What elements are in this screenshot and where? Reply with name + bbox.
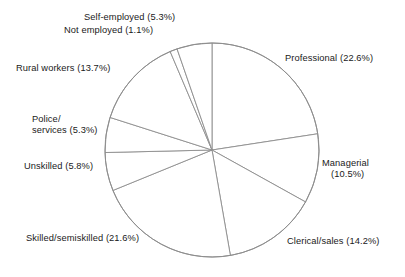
slice-label-self-employed: Self-employed (5.3%): [84, 12, 175, 23]
slice-label-professional: Professional (22.6%): [285, 53, 373, 64]
slice-label-managerial-line1: Managerial: [322, 158, 369, 169]
slice-label-not-employed: Not employed (1.1%): [64, 25, 153, 36]
slice-label-managerial-line2: (10.5%): [322, 169, 369, 180]
pie-slices-group: [105, 43, 319, 257]
slice-label-rural-workers-text: Rural workers (13.7%): [16, 63, 110, 74]
slice-label-police-services-line1: Police/: [32, 114, 97, 125]
pie-chart-figure: Self-employed (5.3%) Not employed (1.1%)…: [0, 0, 405, 277]
slice-label-not-employed-text: Not employed (1.1%): [64, 25, 153, 36]
slice-label-managerial: Managerial (10.5%): [322, 158, 369, 181]
slice-label-rural-workers: Rural workers (13.7%): [16, 63, 110, 74]
slice-label-clerical-sales: Clerical/sales (14.2%): [287, 236, 379, 247]
slice-label-police-services-line2: services (5.3%): [32, 125, 97, 136]
slice-label-unskilled: Unskilled (5.8%): [24, 161, 93, 172]
slice-label-skilled-semiskilled-text: Skilled/semiskilled (21.6%): [26, 233, 139, 244]
slice-label-unskilled-text: Unskilled (5.8%): [24, 161, 93, 172]
slice-label-self-employed-text: Self-employed (5.3%): [84, 12, 175, 23]
slice-label-police-services: Police/ services (5.3%): [32, 114, 97, 137]
slice-label-skilled-semiskilled: Skilled/semiskilled (21.6%): [26, 233, 139, 244]
slice-label-clerical-sales-text: Clerical/sales (14.2%): [287, 236, 379, 247]
slice-label-professional-text: Professional (22.6%): [285, 53, 373, 64]
